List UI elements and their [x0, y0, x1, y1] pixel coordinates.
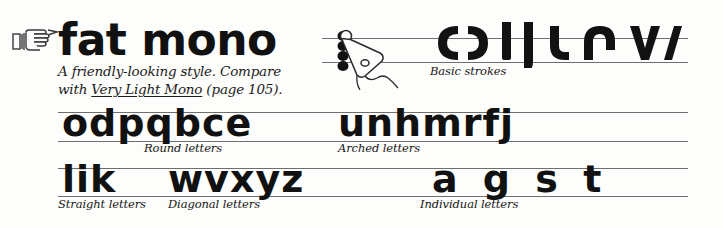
caption-arched-letters: Arched letters — [338, 141, 420, 155]
specimen-diagonal-letters: wvxyz — [168, 160, 304, 198]
description-line-2-prefix: with — [58, 81, 91, 97]
pen-nib-icon — [332, 26, 436, 92]
caption-basic-strokes: Basic strokes — [430, 64, 506, 78]
page-title: fat mono — [58, 18, 277, 62]
basic-strokes-glyphs — [432, 22, 682, 68]
style-description: A friendly-looking style. Compare with V… — [58, 63, 318, 99]
caption-individual-letters: Individual letters — [420, 197, 518, 211]
specimen-round-letters: odpqbce — [62, 104, 252, 142]
description-line-2-suffix: (page 105). — [202, 81, 282, 97]
cross-reference-link[interactable]: Very Light Mono — [91, 81, 202, 97]
caption-straight-letters: Straight letters — [58, 197, 146, 211]
description-line-1: A friendly-looking style. Compare — [58, 63, 281, 79]
specimen-individual-letters: a g s t — [432, 160, 607, 198]
specimen-page: fat mono A friendly-looking style. Compa… — [0, 0, 723, 228]
caption-round-letters: Round letters — [144, 141, 222, 155]
pointing-hand-icon — [10, 22, 60, 60]
caption-diagonal-letters: Diagonal letters — [168, 197, 260, 211]
specimen-arched-letters: unhmrfj — [338, 104, 514, 142]
specimen-straight-letters: lik — [62, 160, 116, 198]
